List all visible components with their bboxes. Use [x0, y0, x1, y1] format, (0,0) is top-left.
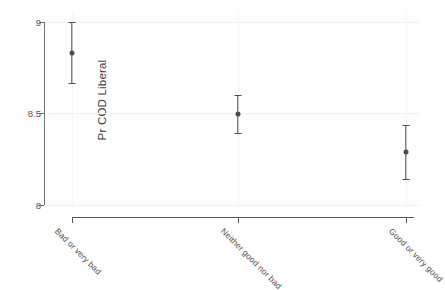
- data-point-marker-3[interactable]: [404, 150, 409, 155]
- x-tick-mark-1: [72, 218, 73, 223]
- error-bar-cap-upper-2: [235, 95, 242, 96]
- plot-area: 9 8.5 8 Bad or very bad Neither good nor…: [44, 12, 420, 212]
- y-tick-label-8point5: 8.5: [28, 108, 41, 119]
- x-tick-mark-2: [238, 218, 239, 223]
- error-bar-cap-upper-1: [69, 22, 76, 23]
- x-axis-label-bad-or-very-bad: Bad or very bad: [53, 226, 104, 277]
- error-bar-cap-lower-2: [235, 133, 242, 134]
- x-axis-line: [72, 217, 414, 218]
- x-axis-label-good-or-very-good: Good or very good: [387, 226, 445, 284]
- y-axis-spine: [44, 22, 45, 205]
- x-tick-mark-3: [406, 218, 407, 223]
- x-axis-label-neither-good-nor-bad: Neither good nor bad: [219, 226, 284, 290]
- y-tick-label-8: 8: [36, 200, 41, 211]
- error-bar-cap-lower-1: [69, 83, 76, 84]
- error-bar-cap-lower-3: [403, 179, 410, 180]
- gridline-horizontal-8: [45, 205, 420, 206]
- error-bar-cap-upper-3: [403, 125, 410, 126]
- y-tick-label-9: 9: [36, 17, 41, 28]
- gridline-horizontal-9: [45, 22, 420, 23]
- data-point-marker-2[interactable]: [236, 112, 241, 117]
- data-point-marker-1[interactable]: [70, 51, 75, 56]
- gridline-horizontal-8point5: [45, 113, 420, 114]
